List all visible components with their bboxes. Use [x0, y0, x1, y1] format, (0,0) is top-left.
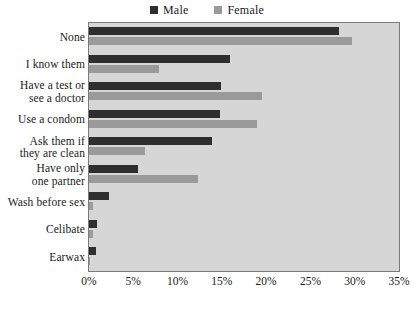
- legend-swatch-female: [214, 6, 222, 14]
- bar-female: [89, 65, 159, 73]
- y-axis-label-line: Have only: [0, 162, 85, 175]
- x-axis-tick: 5%: [113, 274, 153, 288]
- bar-male: [89, 110, 220, 118]
- y-axis-label: Ask them ifthey are clean: [0, 135, 85, 160]
- bar-female: [89, 202, 93, 210]
- x-axis-tick: 25%: [290, 274, 330, 288]
- y-axis-label-line: they are clean: [0, 147, 85, 160]
- x-axis-tick: 35%: [379, 274, 414, 288]
- bar-male: [89, 137, 212, 145]
- y-axis-label-line: Have a test or: [0, 79, 85, 92]
- bar-male: [89, 192, 109, 200]
- bar-male: [89, 82, 221, 90]
- bar-male: [89, 55, 230, 63]
- bar-group: [89, 163, 399, 191]
- bar-group: [89, 135, 399, 163]
- bar-group: [89, 190, 399, 218]
- y-axis-label: None: [0, 31, 85, 44]
- bar-group: [89, 53, 399, 81]
- bar-female: [89, 37, 352, 45]
- legend-entry-female: Female: [214, 4, 264, 16]
- y-axis-label-line: one partner: [0, 175, 85, 188]
- x-axis-tick: 15%: [202, 274, 242, 288]
- y-axis-label-line: I know them: [0, 58, 85, 71]
- legend-entry-male: Male: [150, 4, 188, 16]
- legend-label-female: Female: [227, 4, 264, 16]
- y-axis-label-line: Celibate: [0, 223, 85, 236]
- plot-area: [88, 22, 400, 272]
- y-axis-label-line: Earwax: [0, 251, 85, 264]
- bar-group: [89, 25, 399, 53]
- bar-male: [89, 165, 138, 173]
- y-axis-label: Use a condom: [0, 113, 85, 126]
- y-axis-label: Have a test orsee a doctor: [0, 79, 85, 104]
- x-axis-tick: 10%: [158, 274, 198, 288]
- y-axis-label-line: Ask them if: [0, 135, 85, 148]
- y-axis-category-labels: NoneI know themHave a test orsee a docto…: [0, 22, 85, 272]
- bar-group: [89, 218, 399, 246]
- y-axis-label: Have onlyone partner: [0, 162, 85, 187]
- bar-chart: Male Female NoneI know themHave a test o…: [0, 0, 414, 313]
- y-axis-label-line: Use a condom: [0, 113, 85, 126]
- y-axis-label-line: see a doctor: [0, 92, 85, 105]
- bar-female: [89, 147, 145, 155]
- y-axis-label: Earwax: [0, 251, 85, 264]
- bar-male: [89, 247, 96, 255]
- y-axis-label-line: Wash before sex: [0, 196, 85, 209]
- legend-label-male: Male: [163, 4, 188, 16]
- x-axis-tick: 20%: [246, 274, 286, 288]
- x-axis-tick: 0%: [69, 274, 109, 288]
- chart-legend: Male Female: [0, 2, 414, 18]
- footer-text-fragment: [8, 304, 308, 310]
- bar-female: [89, 120, 257, 128]
- legend-swatch-male: [150, 6, 158, 14]
- bar-female: [89, 230, 93, 238]
- x-axis-tick-labels: 0%5%10%15%20%25%30%35%: [0, 274, 414, 294]
- bar-group: [89, 80, 399, 108]
- bars-container: [89, 23, 399, 271]
- y-axis-label: Wash before sex: [0, 196, 85, 209]
- bar-female: [89, 92, 262, 100]
- y-axis-label-line: None: [0, 31, 85, 44]
- x-axis-tick: 30%: [335, 274, 375, 288]
- bar-female: [89, 175, 198, 183]
- bar-male: [89, 220, 97, 228]
- y-axis-label: I know them: [0, 58, 85, 71]
- y-axis-label: Celibate: [0, 223, 85, 236]
- bar-group: [89, 245, 399, 273]
- bar-female: [89, 257, 90, 265]
- bar-group: [89, 108, 399, 136]
- bar-male: [89, 27, 339, 35]
